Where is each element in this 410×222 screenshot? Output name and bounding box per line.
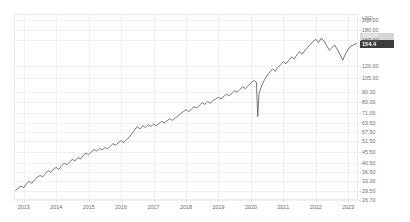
x-axis-tick-label: 2020 <box>245 204 257 211</box>
y-axis-tick-label: 120.00 <box>362 63 378 69</box>
y-axis-tick-mark <box>359 181 361 182</box>
y-axis-tick-mark <box>359 102 361 103</box>
y-axis-tick-label: 51.50 <box>362 138 375 144</box>
x-axis-tick-mark <box>186 200 187 202</box>
x-axis-tick-label: 2016 <box>115 204 127 211</box>
x-axis-tick-mark <box>348 200 349 202</box>
y-axis-tick-mark <box>359 113 361 114</box>
y-axis: USD 154.25 154.4 200.00180.00160.00120.0… <box>359 0 410 222</box>
y-axis-tick-mark <box>359 78 361 79</box>
y-axis-tick-label: 90.00 <box>362 89 375 95</box>
x-axis-tick-mark <box>251 200 252 202</box>
y-axis-tick-mark <box>359 191 361 192</box>
y-axis-tick-mark <box>359 40 361 41</box>
x-axis-tick-label: 2013 <box>18 204 30 211</box>
y-axis-tick-label: 57.50 <box>362 129 375 135</box>
y-axis-tick-mark <box>359 92 361 93</box>
x-axis-tick-label: 2023 <box>342 204 354 211</box>
y-axis-tick-label: 33.00 <box>362 178 375 184</box>
x-axis-tick-label: 2014 <box>50 204 62 211</box>
x-axis-tick-label: 2018 <box>180 204 192 211</box>
x-axis-tick-mark <box>154 200 155 202</box>
x-axis-tick-mark <box>121 200 122 202</box>
x-axis-tick-mark <box>56 200 57 202</box>
x-axis-tick-mark <box>89 200 90 202</box>
x-axis-tick-mark <box>316 200 317 202</box>
x-axis-tick-label: 2017 <box>148 204 160 211</box>
y-axis-tick-label: 200.00 <box>362 17 378 23</box>
y-axis-tick-mark <box>359 152 361 153</box>
y-axis-tick-mark <box>359 132 361 133</box>
x-axis: 2013201420152016201720182019202020212022… <box>0 200 410 222</box>
x-axis-tick-mark <box>218 200 219 202</box>
price-line-series <box>14 14 358 200</box>
y-axis-tick-label: 71.00 <box>362 110 375 116</box>
stock-price-chart: USD 154.25 154.4 200.00180.00160.00120.0… <box>0 0 410 222</box>
x-axis-tick-label: 2022 <box>310 204 322 211</box>
y-axis-tick-label: 63.50 <box>362 120 375 126</box>
y-axis-tick-mark <box>359 163 361 164</box>
y-axis-tick-mark <box>359 123 361 124</box>
y-axis-tick-label: 160.00 <box>362 37 378 43</box>
x-axis-tick-mark <box>24 200 25 202</box>
x-axis-tick-label: 2019 <box>212 204 224 211</box>
y-axis-tick-label: 105.00 <box>362 75 378 81</box>
y-axis-tick-mark <box>359 20 361 21</box>
y-axis-tick-mark <box>359 66 361 67</box>
price-line-path <box>16 38 357 190</box>
y-axis-tick-label: 29.50 <box>362 188 375 194</box>
x-axis-tick-label: 2021 <box>277 204 289 211</box>
y-axis-tick-label: 36.50 <box>362 169 375 175</box>
y-axis-tick-mark <box>359 141 361 142</box>
plot-area[interactable] <box>14 14 358 200</box>
y-axis-tick-label: 80.00 <box>362 99 375 105</box>
y-axis-tick-mark <box>359 172 361 173</box>
y-axis-tick-mark <box>359 30 361 31</box>
x-axis-tick-mark <box>283 200 284 202</box>
x-axis-tick-label: 2015 <box>83 204 95 211</box>
y-axis-tick-label: 45.50 <box>362 149 375 155</box>
y-axis-tick-label: 40.50 <box>362 160 375 166</box>
y-axis-tick-label: 180.00 <box>362 27 378 33</box>
